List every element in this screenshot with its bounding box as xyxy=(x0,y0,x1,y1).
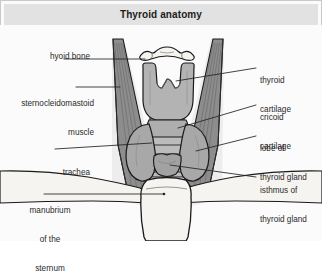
label-thyroid-cartilage-line1: thyroid xyxy=(260,76,320,86)
label-sternocleidomastoid-line2: muscle xyxy=(4,128,94,138)
label-lobe-of-thyroid-gland-line1: lobe of xyxy=(260,144,322,154)
page-title: Thyroid anatomy xyxy=(120,9,202,20)
label-trachea: trachea xyxy=(10,168,90,178)
label-isthmus-of-thyroid-gland-line1: isthmus of xyxy=(260,186,322,196)
label-manubrium-line3: sternum xyxy=(10,264,90,274)
label-manubrium-of-the-sternum: manubrium of the sternum xyxy=(10,187,90,275)
label-sternocleidomastoid-muscle: sternocleidomastoid muscle xyxy=(4,80,94,157)
label-cricoid-cartilage-line1: cricoid xyxy=(260,113,320,123)
label-manubrium-line2: of the xyxy=(10,235,90,245)
label-sternocleidomastoid-line1: sternocleidomastoid xyxy=(4,99,94,109)
label-isthmus-of-thyroid-gland: isthmus of thyroid gland xyxy=(260,167,322,244)
label-manubrium-line1: manubrium xyxy=(10,206,90,216)
thyroid-gland-isthmus xyxy=(154,154,182,177)
label-hyoid-bone: hyoid bone xyxy=(10,52,90,62)
label-isthmus-of-thyroid-gland-line2: thyroid gland xyxy=(260,215,322,225)
cricoid-cartilage xyxy=(147,120,189,137)
figure-title-band: Thyroid anatomy xyxy=(4,4,318,25)
